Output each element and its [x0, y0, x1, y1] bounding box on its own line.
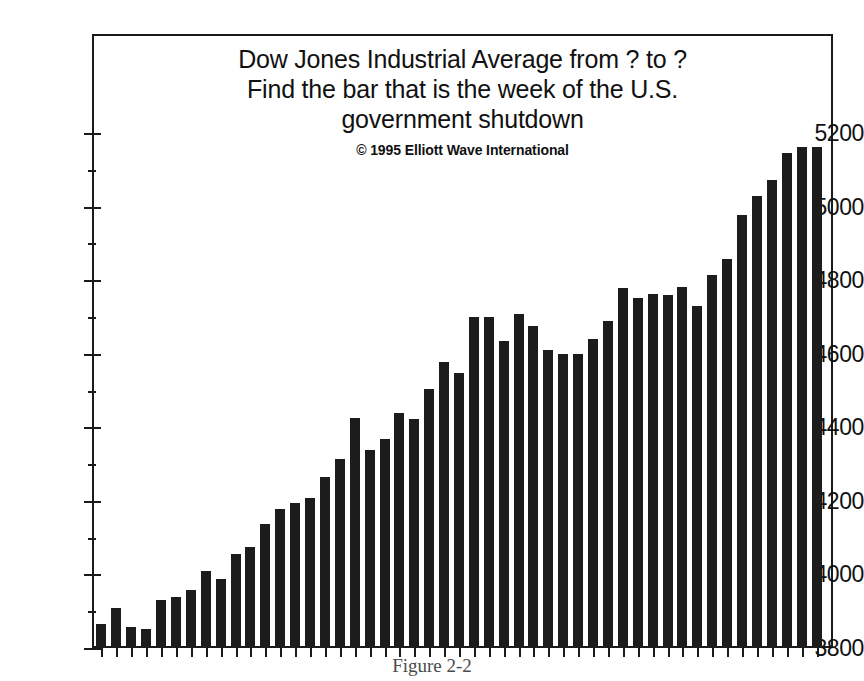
bar [201, 571, 211, 648]
bar [797, 147, 807, 648]
bar [260, 524, 270, 648]
bar [528, 326, 538, 648]
bar [186, 590, 196, 648]
bar [692, 306, 702, 648]
bar [245, 547, 255, 648]
bar [454, 373, 464, 648]
figure-caption: Figure 2-2 [0, 655, 864, 677]
y-axis-tick-mark [84, 648, 101, 650]
bar [603, 321, 613, 648]
bar [156, 600, 166, 648]
bar [752, 196, 762, 648]
bar [275, 509, 285, 648]
bar [305, 498, 315, 648]
bar [648, 294, 658, 648]
plot-area [94, 36, 831, 648]
bar [335, 459, 345, 648]
chart-figure: Dow Jones Industrial Average from ? to ?… [0, 0, 864, 681]
bar [767, 180, 777, 648]
bar [722, 259, 732, 648]
bar [171, 597, 181, 649]
bar [469, 317, 479, 648]
bar [663, 295, 673, 648]
bar [782, 153, 792, 648]
bar [231, 554, 241, 648]
bar [677, 287, 687, 648]
bar [737, 215, 747, 648]
bar [618, 288, 628, 648]
bar [96, 624, 106, 648]
bar [499, 341, 509, 648]
bar [394, 413, 404, 648]
bar [380, 439, 390, 648]
bar [484, 317, 494, 648]
bar [409, 419, 419, 648]
bar [588, 339, 598, 648]
bar [439, 362, 449, 648]
bar [290, 503, 300, 648]
bar [365, 450, 375, 648]
bar [141, 629, 151, 648]
bar [514, 314, 524, 648]
bar [320, 477, 330, 648]
bar [812, 147, 822, 648]
bar [633, 298, 643, 648]
bar [126, 627, 136, 648]
bar [573, 354, 583, 648]
bar [111, 608, 121, 648]
bar [543, 350, 553, 648]
bar [350, 418, 360, 648]
bar [707, 275, 717, 648]
bar [424, 389, 434, 648]
bar [558, 354, 568, 648]
bar [216, 579, 226, 648]
